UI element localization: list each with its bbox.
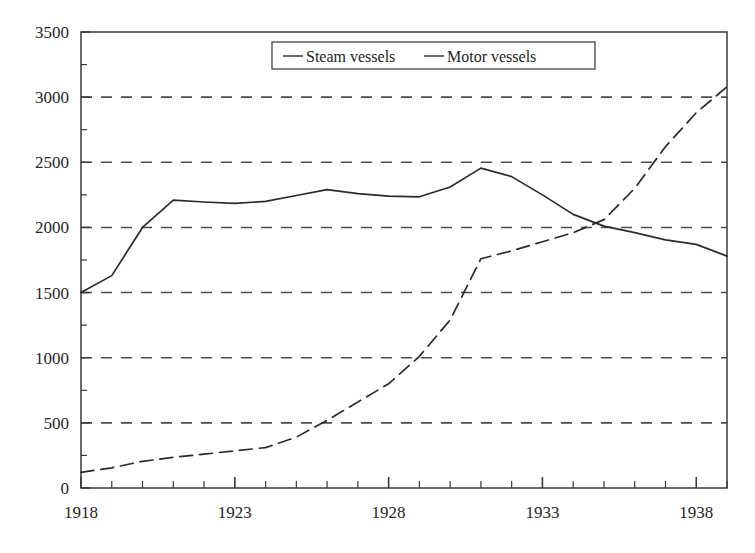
y-axis-labels: 3500300025002000150010005000 [35, 23, 69, 498]
y-axis-label-0: 0 [61, 479, 70, 498]
grid-lines [81, 97, 727, 423]
chart-legend: Steam vessels Motor vessels [272, 42, 595, 69]
series-line-steam-vessels [81, 168, 727, 292]
plot-border [81, 32, 727, 488]
y-axis-label-1000: 1000 [35, 349, 69, 368]
y-axis-label-2500: 2500 [35, 153, 69, 172]
y-axis-label-3000: 3000 [35, 88, 69, 107]
data-series [81, 87, 727, 473]
line-chart: 3500300025002000150010005000 19181923192… [0, 0, 755, 553]
x-axis-label-1918: 1918 [64, 503, 98, 522]
x-axis-labels: 19181923192819331938 [64, 503, 713, 522]
legend-label-motor: Motor vessels [447, 48, 536, 65]
x-axis-label-1923: 1923 [218, 503, 252, 522]
chart-container: 3500300025002000150010005000 19181923192… [0, 0, 755, 553]
y-axis-label-3500: 3500 [35, 23, 69, 42]
x-axis-label-1938: 1938 [679, 503, 713, 522]
plot-frame [81, 32, 727, 488]
x-axis-label-1933: 1933 [525, 503, 559, 522]
y-axis-label-1500: 1500 [35, 284, 69, 303]
x-axis-label-1928: 1928 [372, 503, 406, 522]
legend-label-steam: Steam vessels [306, 48, 395, 65]
axis-ticks [81, 32, 727, 488]
y-axis-label-2000: 2000 [35, 218, 69, 237]
y-axis-label-500: 500 [44, 414, 70, 433]
series-line-motor-vessels [81, 87, 727, 473]
